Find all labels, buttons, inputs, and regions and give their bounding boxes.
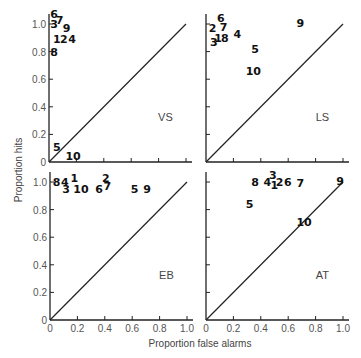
panel-at: 00.20.40.60.81.0AT84312679510 [203, 169, 350, 334]
panel-ls: LS62718345109 [206, 12, 349, 162]
y-tick-label: 0.2 [33, 287, 47, 298]
x-tick-label: 1.0 [336, 323, 350, 334]
x-tick-label: 0.6 [125, 323, 139, 334]
data-point-2: 2 [276, 176, 284, 189]
data-point-3: 3 [210, 36, 218, 49]
data-point-8: 8 [53, 176, 61, 189]
data-point-10: 10 [296, 216, 312, 229]
data-point-8: 8 [50, 46, 58, 59]
x-tick-label: 1.0 [180, 323, 194, 334]
x-tick-label: 0 [203, 323, 209, 334]
data-point-9: 9 [336, 175, 344, 188]
data-point-10: 10 [65, 150, 81, 163]
chance-diagonal [206, 182, 343, 320]
data-point-5: 5 [246, 198, 254, 211]
data-point-10: 10 [73, 183, 89, 196]
y-tick-label: 1.0 [32, 19, 46, 30]
x-tick-label: 0.4 [254, 323, 268, 334]
y-tick-label: 1.0 [33, 177, 47, 188]
y-tick-label: 0.8 [33, 205, 47, 216]
y-tick-label: 0.6 [32, 74, 46, 85]
data-point-9: 9 [143, 183, 151, 196]
x-tick-label: 0 [47, 323, 53, 334]
y-tick-label: 0.4 [33, 260, 47, 271]
y-tick-label: 0 [40, 157, 46, 168]
panel-label: EB [159, 269, 174, 281]
roc-panel-figure: Proportion hits Proportion false alarms … [0, 0, 361, 358]
data-point-8: 8 [221, 32, 229, 45]
data-point-5: 5 [53, 141, 61, 154]
x-tick-label: 0.2 [226, 323, 240, 334]
y-tick-label: 0.4 [32, 102, 46, 113]
data-point-4: 4 [233, 28, 241, 41]
panel-vs: 00.20.40.60.81.0VS63791248510 [32, 8, 192, 168]
data-point-3: 3 [62, 183, 70, 196]
x-tick-label: 0.2 [70, 323, 84, 334]
panel-label: VS [158, 111, 173, 123]
x-tick-label: 0.8 [153, 323, 167, 334]
panel-label: LS [316, 111, 329, 123]
panel-label: AT [316, 269, 330, 281]
data-point-2: 2 [60, 33, 68, 46]
y-tick-label: 0 [41, 315, 47, 326]
y-tick-label: 0.6 [33, 232, 47, 243]
data-point-4: 4 [68, 33, 76, 46]
x-tick-label: 0.6 [281, 323, 295, 334]
x-axis-title: Proportion false alarms [149, 338, 252, 349]
data-point-9: 9 [296, 17, 304, 30]
data-point-5: 5 [251, 43, 259, 56]
data-point-10: 10 [246, 65, 262, 78]
data-point-7: 7 [103, 180, 111, 193]
y-tick-label: 0.2 [32, 129, 46, 140]
data-point-8: 8 [251, 176, 259, 189]
data-point-7: 7 [296, 177, 304, 190]
x-tick-label: 0.8 [309, 323, 323, 334]
panel-eb: 00.20.40.60.81.000.20.40.60.81.0EB841310… [33, 172, 194, 334]
x-tick-label: 0.4 [98, 323, 112, 334]
y-tick-label: 0.8 [32, 47, 46, 58]
data-point-5: 5 [131, 183, 139, 196]
chance-diagonal [50, 182, 187, 320]
y-axis-title: Proportion hits [13, 138, 24, 202]
data-point-6: 6 [95, 183, 103, 196]
data-point-6: 6 [284, 176, 292, 189]
